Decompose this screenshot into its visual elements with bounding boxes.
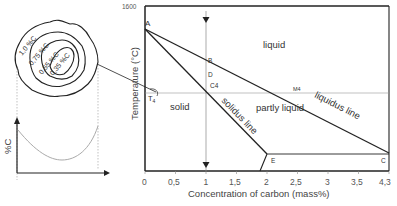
y-axis-title: Temperature (°C) xyxy=(129,47,140,120)
diagram-stage: 1,0 %C 0,75 %C 0,55 %C 0,35 %C %C xyxy=(0,0,397,206)
point-c: C xyxy=(381,157,386,164)
liquidus-line-label: liquidus line xyxy=(313,89,362,121)
point-a: A xyxy=(145,19,151,28)
point-t4: T4 xyxy=(148,94,156,104)
region-solid: solid xyxy=(170,101,190,112)
profile-ylabel: %C xyxy=(2,139,13,154)
region-partly-liquid: partly liquid xyxy=(256,102,304,113)
y-tick-1600: 1600 xyxy=(122,3,137,10)
point-m4: M4 xyxy=(293,86,301,92)
x-tick-0-5: 0,5 xyxy=(168,177,180,187)
arrow-down-top xyxy=(203,17,210,23)
x-axis-title: Concentration of carbon (mass%) xyxy=(188,188,330,199)
arrow-down-bottom xyxy=(203,162,210,168)
x-tick-2: 2 xyxy=(264,177,269,187)
x-tick-0: 0 xyxy=(142,177,147,187)
e-boundary xyxy=(260,154,267,171)
x-tick-1-5: 1,5 xyxy=(229,177,241,187)
solidus-line-label: solidus line xyxy=(220,95,261,136)
region-liquid: liquid xyxy=(263,39,285,50)
x-tick-2-5: 2,5 xyxy=(290,177,302,187)
point-e: E xyxy=(271,157,276,164)
profile-curve xyxy=(18,126,98,160)
profile-plot: %C xyxy=(2,117,110,176)
x-tick-4-3: 4,3 xyxy=(379,177,391,187)
callout-line xyxy=(97,64,156,92)
x-tick-labels: 0 0,5 1 1,5 2 2,5 3 3,5 4,3 xyxy=(142,177,391,187)
x-tick-3: 3 xyxy=(325,177,330,187)
phase-diagram xyxy=(145,6,389,174)
point-b: B xyxy=(208,57,212,64)
contour-labels: 1,0 %C 0,75 %C 0,55 %C 0,35 %C xyxy=(17,35,71,77)
x-tick-3-5: 3,5 xyxy=(351,177,363,187)
point-d: D xyxy=(208,71,213,78)
x-tick-1: 1 xyxy=(204,177,209,187)
point-c4: C4 xyxy=(210,82,219,89)
